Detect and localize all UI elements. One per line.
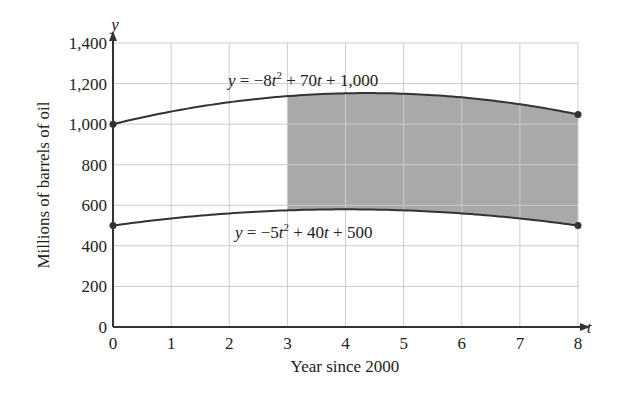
x-tick-label: 4: [341, 334, 350, 353]
x-axis-variable: t: [587, 318, 593, 337]
x-tick-label: 7: [516, 334, 525, 353]
y-tick-label: 400: [82, 237, 108, 256]
y-tick-label: 1,000: [69, 115, 107, 134]
x-tick-label: 0: [109, 334, 118, 353]
lower-endpoint-marker: [575, 222, 582, 229]
x-axis-title: Year since 2000: [291, 357, 400, 376]
x-tick-label: 8: [574, 334, 583, 353]
x-tick-label: 3: [283, 334, 292, 353]
y-tick-label: 0: [99, 318, 108, 337]
y-tick-label: 1,400: [69, 34, 107, 53]
x-tick-label: 5: [399, 334, 408, 353]
x-tick-label: 2: [225, 334, 234, 353]
y-tick-label: 800: [82, 156, 108, 175]
x-tick-label: 6: [458, 334, 467, 353]
y-tick-label: 1,200: [69, 75, 107, 94]
lower-curve-equation: y = −5t2 + 40t + 500: [233, 221, 372, 242]
x-tick-label: 1: [167, 334, 176, 353]
y-tick-label: 600: [82, 196, 108, 215]
upper-endpoint-marker: [575, 111, 582, 118]
upper-curve-equation: y = −8t2 + 70t + 1,000: [226, 69, 378, 90]
y-axis-variable: y: [109, 15, 119, 34]
y-tick-label: 200: [82, 277, 108, 296]
y-axis-title: Millions of barrels of oil: [34, 101, 53, 268]
chart-canvas: 01234567802004006008001,0001,2001,400 Mi…: [0, 0, 623, 397]
